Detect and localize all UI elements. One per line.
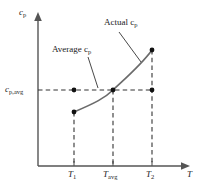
x-tick-label-t2-subscript: 2 [151, 173, 154, 180]
point-tavg-on-curve [111, 88, 116, 93]
x-axis-label: T [187, 170, 192, 179]
x-axis-label-text: T [187, 169, 192, 179]
y-axis-label-subscript: p [23, 11, 26, 18]
y-axis-arrowhead [34, 12, 42, 21]
cp-vs-temperature-figure: cp cp,avg Actual cp Average cp T1 Tavg T… [0, 0, 204, 192]
annotation-average-cp-text: Average c [52, 44, 88, 54]
annotation-actual-cp-subscript: p [134, 21, 137, 28]
point-t2-on-average [150, 88, 155, 93]
annotation-actual-cp: Actual cp [104, 18, 137, 27]
annotation-average-cp: Average cp [52, 45, 91, 54]
annotation-average-cp-subscript: p [88, 48, 91, 55]
x-tick-label-t2: T2 [146, 170, 154, 179]
y-tick-label-subscript: p,avg [9, 88, 23, 95]
annotation-actual-cp-text: Actual c [104, 17, 134, 27]
point-t1-on-curve [72, 110, 77, 115]
x-tick-label-t1-subscript: 1 [73, 173, 76, 180]
x-tick-label-tavg-subscript: avg [108, 173, 117, 180]
x-tick-label-tavg: Tavg [103, 170, 117, 179]
point-t2-on-curve [150, 48, 155, 53]
y-axis-label: cp [19, 8, 26, 17]
x-tick-label-t1: T1 [68, 170, 76, 179]
y-tick-label-cpavg: cp,avg [5, 85, 23, 94]
leader-line-actual-cp [119, 32, 141, 62]
plot-canvas [0, 0, 204, 192]
actual-cp-curve [74, 50, 152, 112]
point-t1-on-average [72, 88, 77, 93]
leader-line-average-cp [88, 57, 98, 88]
